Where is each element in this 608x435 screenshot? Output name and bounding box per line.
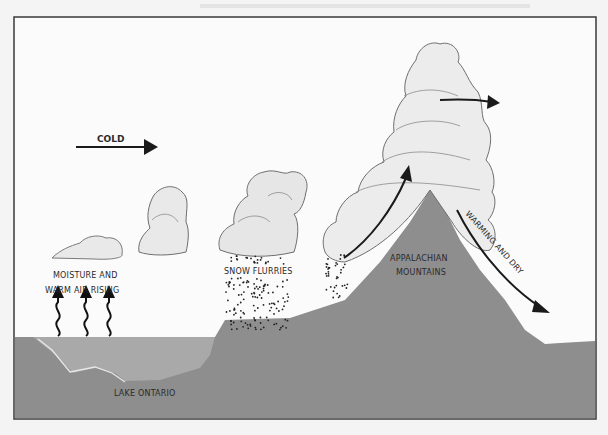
snowflake-dot <box>240 321 242 323</box>
snowflake-dot <box>230 257 232 259</box>
snowflake-dot <box>233 284 235 286</box>
snowflake-dot <box>287 300 289 302</box>
snowflake-dot <box>242 312 244 314</box>
snowflake-dot <box>282 286 284 288</box>
snowflake-dot <box>268 292 270 294</box>
snowflake-dot <box>260 328 262 330</box>
snowflake-dot <box>230 260 232 262</box>
snowflake-dot <box>245 322 247 324</box>
snowflake-dot <box>270 307 272 309</box>
snowflake-dot <box>231 278 233 280</box>
snowflake-dot <box>249 323 251 325</box>
snowflake-dot <box>273 324 275 326</box>
snowflake-dot <box>230 320 232 322</box>
snowflake-dot <box>278 310 280 312</box>
snowflake-dot <box>344 263 346 265</box>
snowflake-dot <box>230 324 232 326</box>
snowflake-dot <box>282 281 284 283</box>
snowflake-dot <box>227 284 229 286</box>
snowflake-dot <box>247 280 249 282</box>
snowflake-dot <box>282 325 284 327</box>
snowflake-dot <box>237 304 239 306</box>
snowflake-dot <box>287 293 289 295</box>
snowflake-dot <box>260 259 262 261</box>
snowflake-dot <box>253 305 255 307</box>
snowflake-dot <box>226 282 228 284</box>
snowflake-dot <box>228 286 230 288</box>
snowflake-dot <box>236 328 238 330</box>
snowflake-dot <box>343 267 345 269</box>
snowflake-dot <box>279 329 281 331</box>
snowflake-dot <box>326 266 328 268</box>
cold-label: COLD <box>97 134 124 144</box>
snowflake-dot <box>250 325 252 327</box>
snowflake-dot <box>344 284 346 286</box>
snowflake-dot <box>333 290 335 292</box>
snowflake-dot <box>233 314 235 316</box>
snowflake-dot <box>267 319 269 321</box>
snowflake-dot <box>243 291 245 293</box>
snowflake-dot <box>225 291 227 293</box>
snowflake-dot <box>326 275 328 277</box>
moisture-label-line2: WARM AIR RISING <box>45 286 119 295</box>
snow-flurries-label: SNOW FLURRIES <box>224 267 293 276</box>
snowflake-dot <box>328 271 330 273</box>
snowflake-dot <box>272 292 274 294</box>
snowflake-dot <box>347 283 349 285</box>
snowflake-dot <box>277 286 279 288</box>
snowflake-dot <box>328 273 330 275</box>
snowflake-dot <box>336 276 338 278</box>
snowflake-dot <box>265 263 267 265</box>
snowflake-dot <box>346 287 348 289</box>
snowflake-dot <box>257 259 259 261</box>
snowflake-dot <box>257 288 259 290</box>
snowflake-dot <box>336 293 338 295</box>
snowflake-dot <box>261 291 263 293</box>
snowflake-dot <box>330 286 332 288</box>
snowflake-dot <box>255 328 257 330</box>
snowflake-dot <box>256 278 258 280</box>
snowflake-dot <box>260 317 262 319</box>
snowflake-dot <box>286 279 288 281</box>
snowflake-dot <box>266 317 268 319</box>
snowflake-dot <box>240 317 242 319</box>
snowflake-dot <box>328 275 330 277</box>
snowflake-dot <box>285 327 287 329</box>
snowflake-dot <box>271 302 273 304</box>
lake-ontario-label: LAKE ONTARIO <box>114 389 176 398</box>
snowflake-dot <box>256 286 258 288</box>
snowflake-dot <box>237 278 239 280</box>
snowflake-dot <box>227 300 229 302</box>
snowflake-dot <box>254 296 256 298</box>
snowflake-dot <box>229 310 231 312</box>
snowflake-dot <box>247 324 249 326</box>
snowflake-dot <box>231 328 233 330</box>
snowflake-dot <box>247 286 249 288</box>
snowflake-dot <box>283 263 285 265</box>
snowflake-dot <box>254 310 256 312</box>
diagram-canvas: COLD MOISTURE AND WARM AIR RISING SNOW F… <box>0 0 608 435</box>
snowflake-dot <box>233 288 235 290</box>
snowflake-dot <box>236 258 238 260</box>
snowflake-dot <box>287 296 289 298</box>
snowflake-dot <box>253 292 255 294</box>
snowflake-dot <box>261 257 263 259</box>
snowflake-dot <box>273 313 275 315</box>
snowflake-dot <box>269 303 271 305</box>
snowflake-dot <box>243 298 245 300</box>
snowflake-dot <box>257 307 259 309</box>
snowflake-dot <box>247 327 249 329</box>
snowflake-dot <box>282 309 284 311</box>
snowflake-dot <box>325 273 327 275</box>
snowflake-dot <box>327 258 329 260</box>
snowflake-dot <box>238 294 240 296</box>
snowflake-dot <box>267 261 269 263</box>
snowflake-dot <box>336 278 338 280</box>
snowflake-dot <box>340 272 342 274</box>
snowflake-dot <box>251 293 253 295</box>
snowflake-dot <box>246 282 248 284</box>
snowflake-dot <box>340 269 342 271</box>
snowflake-dot <box>282 297 284 299</box>
snowflake-dot <box>259 286 261 288</box>
snowflake-dot <box>261 297 263 299</box>
